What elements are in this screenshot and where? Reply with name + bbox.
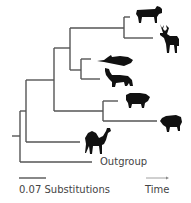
pig-icon bbox=[126, 93, 150, 108]
outgroup-label: Outgroup bbox=[100, 157, 147, 167]
phylogenetic-tree bbox=[0, 0, 191, 203]
whale-icon bbox=[97, 55, 133, 66]
hippo-icon bbox=[105, 68, 133, 87]
peccary-icon bbox=[160, 115, 182, 132]
time-arrow-icon bbox=[146, 177, 169, 180]
deer-icon bbox=[160, 24, 179, 53]
time-label: Time bbox=[145, 185, 169, 195]
scale-bar-label: 0.07 Substitutions bbox=[19, 185, 110, 195]
cow-icon bbox=[136, 6, 162, 23]
camel-icon bbox=[85, 128, 111, 154]
